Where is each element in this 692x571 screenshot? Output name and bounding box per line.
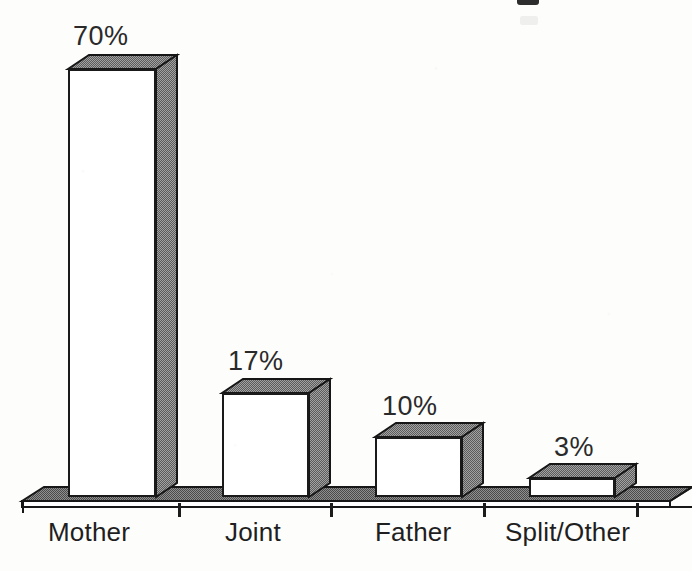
bar-joint-front — [222, 393, 309, 497]
bar-father — [375, 437, 462, 497]
bar-value-mother: 70% — [73, 23, 129, 50]
bar-joint — [222, 393, 309, 497]
axis-tick-4 — [636, 503, 639, 517]
bar-value-father: 10% — [382, 393, 438, 420]
bar-value-joint: 17% — [228, 348, 284, 375]
x-label-mother: Mother — [48, 519, 130, 545]
bar-split-other — [529, 478, 615, 497]
bar-chart: 70% 17% 10% 3% Mother Joint Father Split… — [0, 0, 692, 571]
bar-mother-front — [68, 69, 156, 497]
axis-tick-3 — [483, 503, 486, 517]
bar-father-front — [375, 437, 462, 497]
axis-tick-1 — [178, 503, 181, 517]
cropped-title-ghost — [520, 16, 538, 25]
bar-mother — [68, 69, 156, 497]
axis-tick-2 — [330, 503, 333, 517]
bar-split-other-front — [529, 478, 615, 497]
cropped-title-mark — [517, 0, 539, 5]
bar-value-split-other: 3% — [554, 434, 594, 461]
